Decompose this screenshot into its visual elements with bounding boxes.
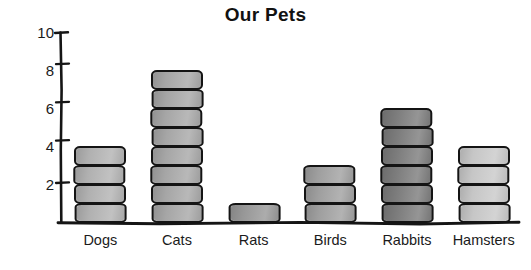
bar-block	[152, 203, 204, 223]
bar-block	[152, 127, 204, 147]
y-axis-tick-labels: 246810	[20, 0, 54, 270]
bar-rats[interactable]	[228, 203, 280, 222]
bar-block	[304, 184, 356, 204]
bar-cats[interactable]	[151, 70, 203, 222]
bar-hamsters[interactable]	[458, 146, 510, 222]
bar-block	[151, 146, 203, 166]
bar-block	[458, 184, 510, 204]
y-tick-label-4: 4	[24, 139, 54, 154]
bar-block	[458, 146, 510, 166]
bar-block	[150, 165, 202, 185]
bar-birds[interactable]	[304, 165, 356, 222]
bar-block	[74, 165, 126, 185]
bar-block	[305, 203, 357, 223]
bars-layer	[62, 32, 522, 222]
x-tick-label-rats: Rats	[215, 232, 292, 248]
bar-block	[304, 165, 356, 185]
y-tick-label-2: 2	[24, 177, 54, 192]
y-tick-label-6: 6	[24, 101, 54, 116]
y-tick-label-8: 8	[24, 63, 54, 78]
pets-bar-chart: Our Pets 246810 DogsCatsRatsBirdsRabbits…	[0, 0, 531, 270]
x-tick-label-dogs: Dogs	[62, 232, 139, 248]
bar-block	[458, 203, 510, 223]
bar-rabbits[interactable]	[381, 108, 433, 222]
bar-block	[382, 127, 434, 147]
bar-block	[228, 203, 280, 223]
bar-dogs[interactable]	[74, 146, 126, 222]
x-tick-label-cats: Cats	[139, 232, 216, 248]
bar-block	[382, 203, 434, 223]
y-tick-label-10: 10	[24, 25, 54, 40]
bar-block	[381, 184, 433, 204]
bar-block	[380, 165, 432, 185]
bar-block	[74, 146, 126, 166]
bar-block	[152, 89, 204, 109]
bar-block	[75, 203, 127, 223]
bar-block	[150, 108, 202, 128]
bar-block	[381, 146, 433, 166]
bar-block	[457, 165, 509, 185]
x-tick-label-rabbits: Rabbits	[369, 232, 446, 248]
x-tick-label-hamsters: Hamsters	[445, 232, 522, 248]
bar-block	[380, 108, 432, 128]
x-tick-label-birds: Birds	[292, 232, 369, 248]
x-axis-category-labels: DogsCatsRatsBirdsRabbitsHamsters	[62, 232, 522, 258]
bar-block	[151, 70, 203, 90]
bar-block	[151, 184, 203, 204]
bar-block	[74, 184, 126, 204]
